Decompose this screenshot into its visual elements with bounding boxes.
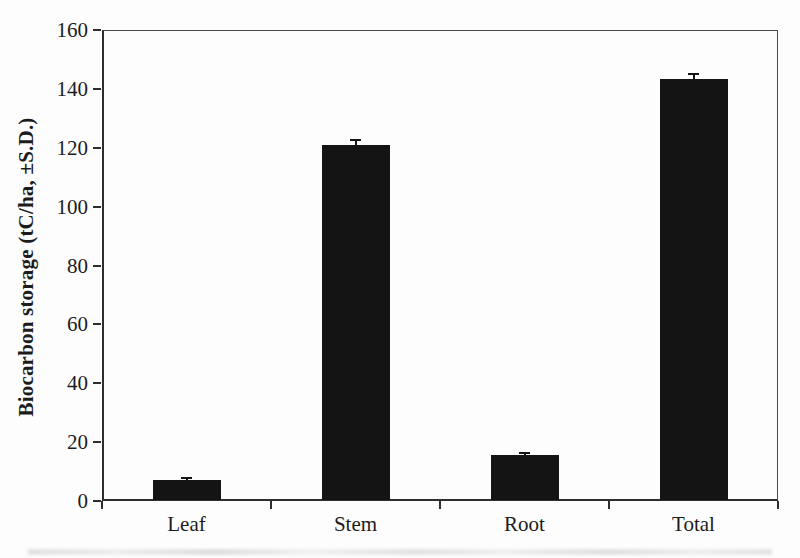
y-axis-tick <box>93 206 101 208</box>
y-axis-tick <box>93 265 101 267</box>
y-axis-tick <box>93 500 101 502</box>
y-axis-tick <box>93 441 101 443</box>
x-axis-label-total: Total <box>634 512 754 536</box>
y-axis-tick-label: 0 <box>28 489 88 513</box>
x-axis-tick <box>439 501 441 509</box>
x-axis-label-leaf: Leaf <box>127 512 247 536</box>
bar-leaf <box>153 480 221 500</box>
y-axis-tick-label: 40 <box>28 371 88 395</box>
error-bar-cap-total <box>688 73 699 75</box>
error-bar-cap-root <box>519 452 530 454</box>
y-axis-tick-label: 140 <box>28 77 88 101</box>
y-axis-tick <box>93 382 101 384</box>
x-axis-label-root: Root <box>465 512 585 536</box>
error-bar-cap-stem <box>350 139 361 141</box>
y-axis-tick <box>93 147 101 149</box>
y-axis-tick-label: 160 <box>28 18 88 42</box>
error-bar-line-total <box>693 74 695 78</box>
y-axis-tick-label: 60 <box>28 312 88 336</box>
x-axis-tick <box>777 501 779 509</box>
bar-root <box>491 455 559 500</box>
x-axis-tick <box>101 501 103 509</box>
x-axis-tick <box>270 501 272 509</box>
y-axis-tick-label: 20 <box>28 430 88 454</box>
error-bar-line-stem <box>355 140 357 144</box>
y-axis-tick-label: 80 <box>28 254 88 278</box>
y-axis-tick <box>93 323 101 325</box>
x-axis-label-stem: Stem <box>296 512 416 536</box>
bar-stem <box>322 145 390 500</box>
y-axis-tick-label: 120 <box>28 136 88 160</box>
figure-canvas: Biocarbon storage (tC/ha, ±S.D.) 0204060… <box>0 0 800 558</box>
bar-total <box>660 79 728 500</box>
y-axis-tick <box>93 29 101 31</box>
cropped-caption-edge <box>28 549 772 555</box>
error-bar-cap-leaf <box>181 477 192 479</box>
y-axis-tick-label: 100 <box>28 195 88 219</box>
x-axis-tick <box>608 501 610 509</box>
y-axis-tick <box>93 88 101 90</box>
